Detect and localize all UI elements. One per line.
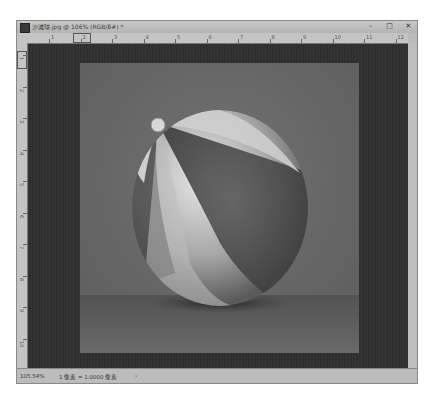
pasteboard[interactable] bbox=[28, 44, 410, 370]
ruler-tick bbox=[23, 150, 27, 151]
ruler-tick bbox=[207, 39, 208, 43]
ruler-tick bbox=[238, 39, 239, 43]
document-title: 沙滩球.jpg @ 106% (RGB/8#) * bbox=[32, 22, 123, 32]
ruler-origin[interactable] bbox=[17, 33, 27, 43]
vertical-ruler[interactable]: 12345678910 bbox=[17, 43, 28, 369]
ruler-tick bbox=[23, 55, 27, 56]
ruler-tick-label: 10 bbox=[335, 34, 341, 40]
ruler-tick bbox=[23, 307, 27, 308]
ruler-tick bbox=[270, 39, 271, 43]
ruler-tick-label: 5 bbox=[177, 34, 180, 40]
ruler-tick bbox=[333, 39, 334, 43]
ruler-tick-label: 7 bbox=[19, 246, 25, 249]
ruler-tick bbox=[49, 39, 50, 43]
ball-valve bbox=[151, 118, 165, 132]
status-menu-arrow-icon[interactable]: › bbox=[135, 372, 137, 379]
document-icon bbox=[20, 23, 30, 33]
ruler-tick bbox=[23, 213, 27, 214]
ruler-tick-label: 6 bbox=[19, 215, 25, 218]
ruler-tick bbox=[23, 181, 27, 182]
ruler-tick-label: 5 bbox=[19, 183, 25, 186]
ruler-tick-label: 8 bbox=[19, 278, 25, 281]
ruler-tick bbox=[23, 118, 27, 119]
ruler-tick-label: 4 bbox=[146, 34, 149, 40]
ruler-tick bbox=[144, 39, 145, 43]
ruler-tick bbox=[23, 87, 27, 88]
title-bar[interactable]: 沙滩球.jpg @ 106% (RGB/8#) * – □ ✕ bbox=[17, 21, 417, 33]
ruler-tick-label: 9 bbox=[19, 309, 25, 312]
ruler-tick bbox=[175, 39, 176, 43]
ruler-tick-label: 1 bbox=[19, 57, 25, 60]
minimize-button[interactable]: – bbox=[366, 22, 375, 31]
ruler-tick bbox=[81, 39, 82, 43]
ruler-tick-label: 4 bbox=[19, 152, 25, 155]
document-window: 沙滩球.jpg @ 106% (RGB/8#) * – □ ✕ 12345678… bbox=[16, 20, 418, 384]
ruler-tick bbox=[23, 276, 27, 277]
ruler-tick-label: 7 bbox=[240, 34, 243, 40]
horizontal-ruler[interactable]: 123456789101112 bbox=[27, 33, 408, 44]
window-controls: – □ ✕ bbox=[366, 22, 413, 31]
ruler-tick-label: 11 bbox=[366, 34, 372, 40]
ruler-tick bbox=[112, 39, 113, 43]
ruler-tick-label: 2 bbox=[19, 89, 25, 92]
beach-ball-image bbox=[80, 63, 359, 353]
close-button[interactable]: ✕ bbox=[404, 22, 413, 31]
ruler-tick-label: 9 bbox=[303, 34, 306, 40]
ruler-tick-label: 12 bbox=[398, 34, 404, 40]
status-bar: 105.54% 1 像素 = 1.0000 像素 › bbox=[17, 368, 417, 383]
document-info: 1 像素 = 1.0000 像素 bbox=[59, 373, 117, 381]
vertical-scrollbar[interactable] bbox=[408, 43, 417, 369]
ruler-tick bbox=[23, 244, 27, 245]
zoom-level-field[interactable]: 105.54% bbox=[20, 373, 44, 379]
ruler-tick bbox=[301, 39, 302, 43]
maximize-button[interactable]: □ bbox=[385, 22, 394, 31]
ruler-tick-label: 6 bbox=[209, 34, 212, 40]
ruler-tick bbox=[364, 39, 365, 43]
ruler-tick-label: 3 bbox=[114, 34, 117, 40]
ruler-tick-label: 3 bbox=[19, 120, 25, 123]
ruler-tick-label: 8 bbox=[272, 34, 275, 40]
ruler-tick-label: 2 bbox=[83, 34, 86, 40]
ruler-tick-label: 10 bbox=[19, 341, 25, 347]
image-canvas[interactable] bbox=[80, 63, 359, 353]
ruler-tick-label: 1 bbox=[51, 34, 54, 40]
ruler-tick bbox=[23, 339, 27, 340]
ruler-tick bbox=[396, 39, 397, 43]
